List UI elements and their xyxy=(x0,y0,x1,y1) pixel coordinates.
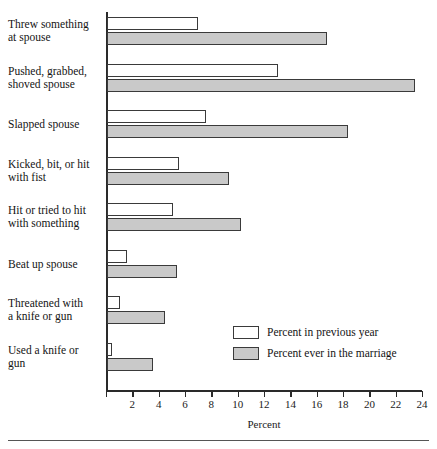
bar-ever-in-marriage xyxy=(107,265,177,278)
bar-chart: 24681012141618202224 Threw somethingat s… xyxy=(0,0,437,449)
category-label-line: Pushed, grabbed, xyxy=(8,65,104,78)
x-axis-title: Percent xyxy=(106,418,422,430)
x-axis-tick xyxy=(396,391,397,397)
x-axis-tick xyxy=(106,391,107,397)
legend-item-ever-in-marriage: Percent ever in the marriage xyxy=(233,343,397,364)
x-axis-tick-label: 20 xyxy=(357,398,381,410)
category-group: Pushed, grabbed,shoved spouse xyxy=(0,64,437,92)
x-axis-tick xyxy=(369,391,370,397)
gray-swatch-icon xyxy=(233,347,259,360)
category-label: Pushed, grabbed,shoved spouse xyxy=(8,65,104,91)
bar-ever-in-marriage xyxy=(107,79,415,92)
x-axis-tick xyxy=(185,391,186,397)
x-axis-tick-label: 22 xyxy=(384,398,408,410)
x-axis-tick-label: 14 xyxy=(278,398,302,410)
category-label-line: gun xyxy=(8,357,104,370)
x-axis-tick-label: 4 xyxy=(147,398,171,410)
category-label: Hit or tried to hitwith something xyxy=(8,204,104,230)
legend-label-ever-in-marriage: Percent ever in the marriage xyxy=(267,347,397,360)
category-group: Hit or tried to hitwith something xyxy=(0,203,437,231)
bar-previous-year xyxy=(107,296,120,309)
x-axis-tick xyxy=(264,391,265,397)
x-axis-tick-label: 2 xyxy=(120,398,144,410)
x-axis-tick-label: 8 xyxy=(199,398,223,410)
x-axis-tick xyxy=(290,391,291,397)
category-label: Slapped spouse xyxy=(8,118,104,131)
bar-previous-year xyxy=(107,17,198,30)
category-label-line: with something xyxy=(8,217,104,230)
x-axis-tick-label: 12 xyxy=(252,398,276,410)
category-label-line: shoved spouse xyxy=(8,78,104,91)
bar-ever-in-marriage xyxy=(107,172,229,185)
category-label: Beat up spouse xyxy=(8,258,104,271)
category-label-line: Threw something xyxy=(8,18,104,31)
legend-label-previous-year: Percent in previous year xyxy=(267,326,378,339)
bar-previous-year xyxy=(107,64,278,77)
category-group: Threw somethingat spouse xyxy=(0,17,437,45)
category-label: Used a knife orgun xyxy=(8,344,104,370)
bar-previous-year xyxy=(107,343,112,356)
category-label-line: a knife or gun xyxy=(8,310,104,323)
x-axis-tick xyxy=(317,391,318,397)
legend: Percent in previous year Percent ever in… xyxy=(233,322,397,364)
category-label-line: Threatened with xyxy=(8,297,104,310)
x-axis-tick-label: 16 xyxy=(305,398,329,410)
bar-ever-in-marriage xyxy=(107,32,327,45)
x-axis-tick-label: 18 xyxy=(331,398,355,410)
category-label-line: Beat up spouse xyxy=(8,258,104,271)
bar-ever-in-marriage xyxy=(107,311,165,324)
x-axis-tick xyxy=(238,391,239,397)
category-label-line: at spouse xyxy=(8,31,104,44)
footer-divider xyxy=(8,440,429,441)
bar-previous-year xyxy=(107,203,173,216)
category-group: Kicked, bit, or hitwith fist xyxy=(0,157,437,185)
category-label-line: Used a knife or xyxy=(8,344,104,357)
bar-ever-in-marriage xyxy=(107,218,241,231)
category-label-line: Hit or tried to hit xyxy=(8,204,104,217)
x-axis-tick-label: 24 xyxy=(410,398,434,410)
bar-ever-in-marriage xyxy=(107,125,348,138)
category-group: Slapped spouse xyxy=(0,110,437,138)
bar-previous-year xyxy=(107,110,206,123)
white-swatch-icon xyxy=(233,326,259,339)
category-label-line: Kicked, bit, or hit xyxy=(8,158,104,171)
category-label-line: Slapped spouse xyxy=(8,118,104,131)
legend-item-previous-year: Percent in previous year xyxy=(233,322,397,343)
bar-previous-year xyxy=(107,250,127,263)
x-axis-tick xyxy=(159,391,160,397)
category-label: Threw somethingat spouse xyxy=(8,18,104,44)
bar-ever-in-marriage xyxy=(107,358,153,371)
x-axis-tick-label: 10 xyxy=(226,398,250,410)
category-group: Beat up spouse xyxy=(0,250,437,278)
x-axis-tick xyxy=(422,391,423,397)
category-label: Kicked, bit, or hitwith fist xyxy=(8,158,104,184)
x-axis-tick xyxy=(132,391,133,397)
x-axis-tick xyxy=(211,391,212,397)
category-label: Threatened witha knife or gun xyxy=(8,297,104,323)
bar-previous-year xyxy=(107,157,179,170)
x-axis-tick-label: 6 xyxy=(173,398,197,410)
x-axis-tick xyxy=(343,391,344,397)
category-label-line: with fist xyxy=(8,171,104,184)
category-group: Threatened witha knife or gun xyxy=(0,296,437,324)
